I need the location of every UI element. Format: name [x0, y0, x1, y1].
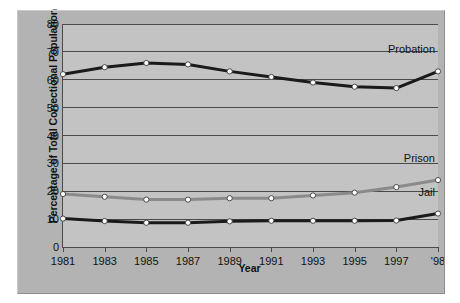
data-point-marker	[269, 196, 274, 201]
data-point-marker	[144, 220, 149, 225]
series-line-prison	[63, 180, 438, 200]
data-point-marker	[435, 211, 440, 216]
data-point-marker	[394, 218, 399, 223]
data-point-marker	[102, 65, 107, 70]
data-point-marker	[394, 86, 399, 91]
data-point-marker	[102, 218, 107, 223]
data-point-marker	[185, 62, 190, 67]
data-point-marker	[352, 218, 357, 223]
data-point-marker	[435, 178, 440, 183]
x-tick-mark	[230, 247, 231, 252]
y-tick-label: 20	[47, 185, 59, 197]
data-point-marker	[60, 72, 65, 77]
data-point-marker	[394, 184, 399, 189]
plot-inner: 01020304050607080 1981198319851987198919…	[63, 24, 438, 247]
x-tick-mark	[271, 247, 272, 252]
series-line-probation	[63, 63, 438, 88]
x-tick-mark	[396, 247, 397, 252]
data-point-marker	[60, 216, 65, 221]
plot-area: 01020304050607080 1981198319851987198919…	[62, 24, 438, 248]
data-point-marker	[352, 84, 357, 89]
y-tick-label: 0	[53, 241, 59, 253]
data-point-marker	[102, 194, 107, 199]
series-label-probation: Probation	[388, 43, 435, 55]
series-group	[63, 24, 438, 247]
data-point-marker	[269, 218, 274, 223]
series-line-jail	[63, 214, 438, 223]
data-point-marker	[310, 80, 315, 85]
y-tick-label: 10	[47, 213, 59, 225]
x-tick-mark	[105, 247, 106, 252]
data-point-marker	[227, 69, 232, 74]
x-axis-title: Year	[62, 262, 437, 274]
y-tick-label: 50	[47, 102, 59, 114]
x-tick-mark	[188, 247, 189, 252]
data-point-marker	[185, 197, 190, 202]
data-point-marker	[269, 74, 274, 79]
x-tick-mark	[313, 247, 314, 252]
y-tick-label: 30	[47, 157, 59, 169]
data-point-marker	[310, 218, 315, 223]
y-tick-label: 60	[47, 74, 59, 86]
data-point-marker	[310, 193, 315, 198]
data-point-marker	[227, 219, 232, 224]
data-point-marker	[352, 190, 357, 195]
data-point-marker	[144, 197, 149, 202]
x-tick-mark	[438, 247, 439, 252]
x-tick-mark	[355, 247, 356, 252]
x-tick-mark	[63, 247, 64, 252]
chart-figure: Percentage of Total Correctional Populat…	[17, 10, 445, 294]
data-point-marker	[144, 60, 149, 65]
data-point-marker	[227, 196, 232, 201]
data-point-marker	[60, 191, 65, 196]
series-label-prison: Prison	[404, 152, 435, 164]
x-tick-mark	[146, 247, 147, 252]
data-point-marker	[185, 220, 190, 225]
y-tick-label: 40	[47, 130, 59, 142]
series-label-jail: Jail	[418, 186, 435, 198]
y-tick-label: 70	[47, 46, 59, 58]
data-point-marker	[435, 69, 440, 74]
y-tick-label: 80	[47, 18, 59, 30]
